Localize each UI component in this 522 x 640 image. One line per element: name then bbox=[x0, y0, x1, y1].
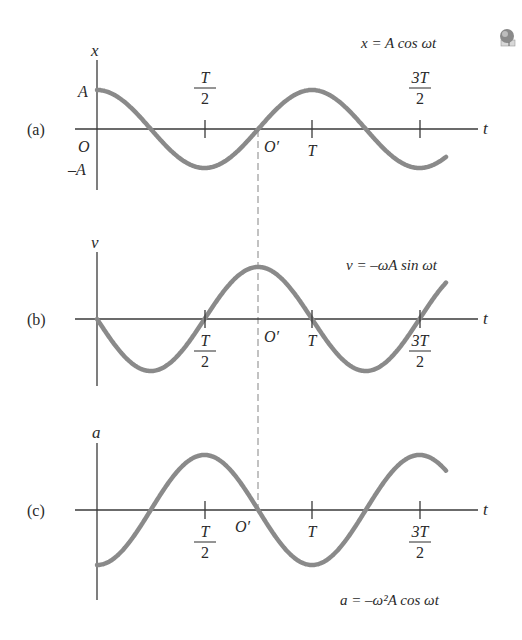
svg-text:3T: 3T bbox=[411, 69, 430, 86]
amplitude-top-label: A bbox=[77, 83, 88, 100]
origin-prime-label: O′ bbox=[264, 138, 280, 155]
tick-label: T2 bbox=[194, 523, 216, 561]
amplitude-bottom-label: –A bbox=[67, 161, 86, 178]
svg-text:2: 2 bbox=[201, 90, 209, 107]
shm-figure: T2T3T2 (a) x t A –A O O′ x = A cos ωt T2… bbox=[0, 0, 522, 640]
y-axis-label: v bbox=[91, 233, 99, 252]
svg-text:T: T bbox=[201, 523, 211, 540]
tick-label: 3T2 bbox=[409, 332, 431, 370]
tick-label: 3T2 bbox=[409, 69, 431, 107]
tick-label: T bbox=[308, 523, 318, 540]
equation: v = –ωA sin ωt bbox=[346, 257, 438, 273]
origin-prime-label: O′ bbox=[264, 328, 280, 345]
t-axis-label: t bbox=[483, 309, 489, 328]
svg-text:T: T bbox=[201, 69, 211, 86]
tick-label: T bbox=[308, 332, 318, 349]
origin-prime-label: O′ bbox=[235, 518, 251, 535]
y-axis-label: x bbox=[90, 41, 99, 60]
panel-label: (a) bbox=[27, 121, 45, 139]
tick-label: T2 bbox=[194, 69, 216, 107]
panel-label: (c) bbox=[27, 502, 45, 520]
svg-text:2: 2 bbox=[201, 353, 209, 370]
svg-text:T: T bbox=[308, 142, 318, 159]
tick-label: T bbox=[308, 142, 318, 159]
origin-label: O bbox=[78, 138, 90, 155]
t-axis-label: t bbox=[483, 119, 489, 138]
tick-label: 3T2 bbox=[409, 523, 431, 561]
tick-marks: T2T3T2 bbox=[194, 69, 431, 159]
svg-text:3T: 3T bbox=[411, 332, 430, 349]
tick-label: T2 bbox=[194, 332, 216, 370]
t-axis-label: t bbox=[483, 500, 489, 519]
svg-text:2: 2 bbox=[416, 544, 424, 561]
equation: a = –ω²A cos ωt bbox=[340, 592, 440, 608]
globe-icon bbox=[500, 29, 515, 46]
svg-text:T: T bbox=[201, 332, 211, 349]
svg-text:2: 2 bbox=[416, 90, 424, 107]
svg-text:T: T bbox=[308, 332, 318, 349]
svg-text:2: 2 bbox=[416, 353, 424, 370]
svg-text:T: T bbox=[308, 523, 318, 540]
equation: x = A cos ωt bbox=[360, 35, 437, 51]
y-axis-label: a bbox=[92, 423, 101, 442]
panel-label: (b) bbox=[27, 311, 46, 329]
svg-text:2: 2 bbox=[201, 544, 209, 561]
svg-text:3T: 3T bbox=[411, 523, 430, 540]
